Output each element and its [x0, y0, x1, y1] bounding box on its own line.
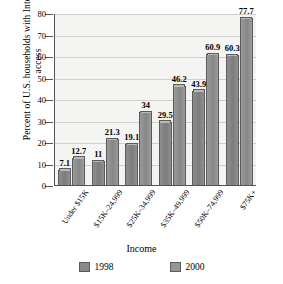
y-axis-tick-label: 10 [22, 160, 46, 170]
y-axis-tick [45, 122, 53, 123]
bar-top-face [73, 156, 85, 158]
y-axis-tick [45, 57, 53, 58]
y-axis-tick [45, 14, 53, 15]
bar-top-face [59, 168, 71, 170]
bar-value-label: 46.2 [172, 74, 187, 84]
bar-top-face [193, 89, 205, 91]
legend-label: 2000 [186, 262, 205, 272]
y-axis-tick-label: 50 [22, 74, 46, 84]
bar-value-label: 60.9 [205, 42, 220, 52]
y-axis-tick-label: 0 [22, 181, 46, 191]
bar: 46.2 [173, 86, 186, 185]
bar-value-label: 43.9 [191, 79, 206, 89]
y-axis-tick [45, 79, 53, 80]
bar: 12.7 [72, 158, 85, 185]
bar-value-label: 29.5 [158, 110, 173, 120]
y-axis-tick-label: 70 [22, 31, 46, 41]
bar-groups: 7.112.71121.319.13429.546.243.960.960.37… [55, 14, 256, 185]
y-axis-tick-label: 40 [22, 95, 46, 105]
legend-item-1998: 1998 [79, 262, 114, 272]
y-axis-tick-label: 30 [22, 117, 46, 127]
bar-1998-0: 7.1 [58, 14, 71, 185]
bar-value-label: 34 [142, 100, 151, 110]
legend-label: 1998 [95, 262, 114, 272]
bar-top-face [173, 84, 185, 86]
bar-value-label: 60.3 [225, 43, 240, 53]
bar-top-face [159, 120, 171, 122]
bar-top-face [207, 53, 219, 55]
legend-swatch [79, 262, 90, 272]
bar-chart: Percent of U.S. households with Internet… [0, 0, 283, 284]
bar-top-face [106, 138, 118, 140]
chart-legend: 19982000 [0, 262, 283, 272]
y-axis-tick-label: 60 [22, 52, 46, 62]
legend-item-2000: 2000 [170, 262, 205, 272]
y-axis-tick-label: 20 [22, 138, 46, 148]
bar-group: 7.112.7 [58, 14, 85, 185]
bar-top-face [140, 111, 152, 113]
bar-top-face [240, 17, 252, 19]
x-axis-tick-labels: Under $15K$15K–24,999$25K–34,999$35K–49,… [54, 188, 256, 244]
bar-top-face [126, 143, 138, 145]
y-axis-tick [45, 186, 53, 187]
bar-value-label: 77.7 [239, 6, 254, 16]
y-axis-tick [45, 165, 53, 166]
plot-area: 7.112.71121.319.13429.546.243.960.960.37… [54, 14, 256, 186]
bar-value-label: 12.7 [71, 146, 86, 156]
bar-2000-0: 12.7 [72, 14, 85, 185]
y-axis-tick [45, 36, 53, 37]
y-axis-tick [45, 143, 53, 144]
bar-value-label: 11 [94, 149, 102, 159]
bar-value-label: 7.1 [59, 158, 70, 168]
x-axis-title: Income [0, 243, 283, 254]
bar: 7.1 [58, 170, 71, 185]
y-axis-tick [45, 100, 53, 101]
y-axis-tick-label: 80 [22, 9, 46, 19]
bar-value-label: 21.3 [105, 127, 120, 137]
bar-value-label: 19.1 [124, 132, 139, 142]
bar: 34 [139, 112, 152, 185]
bar-top-face [226, 54, 238, 56]
legend-swatch [170, 262, 181, 272]
